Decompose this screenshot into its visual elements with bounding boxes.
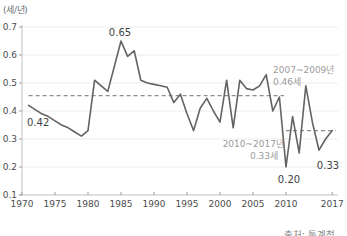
x-axis-tick-label: 1990: [143, 199, 166, 209]
x-axis-tick-label: 2000: [209, 199, 232, 209]
annotation-2010-value: 0.20: [278, 174, 300, 185]
annotation-1971-value: 0.42: [27, 117, 49, 128]
y-axis-tick-label: 0.3: [3, 134, 17, 144]
y-axis-tick-label: 0.5: [3, 78, 17, 88]
x-axis-tick-label: 2005: [242, 199, 265, 209]
y-axis-unit-label: (세/년): [3, 3, 28, 16]
y-axis-tick-label: 0.6: [3, 50, 18, 60]
annotation-2017-value: 0.33: [317, 160, 339, 171]
x-axis-tick-label: 1985: [110, 199, 133, 209]
source-label: 출처: 통계청: [284, 227, 335, 236]
line-chart: 0.70.60.50.40.30.20.11970197519801985199…: [0, 0, 347, 236]
y-axis-tick-label: 0.4: [3, 106, 18, 116]
x-axis-tick-label: 1980: [77, 199, 100, 209]
x-axis-tick-label: 1970: [11, 199, 34, 209]
x-axis-tick-label: 2017: [321, 199, 344, 209]
trend-line: [29, 41, 333, 167]
y-axis-tick-label: 0.7: [3, 22, 17, 32]
avg-2007-2009-period-label: 2007~2009년: [273, 65, 334, 75]
annotation-1985-value: 0.65: [109, 27, 131, 38]
x-axis-tick-label: 2010: [275, 199, 298, 209]
avg-2007-2009-value-label: 0.46세: [273, 77, 301, 87]
chart-container: (세/년) 0.70.60.50.40.30.20.11970197519801…: [0, 0, 347, 236]
x-axis-tick-label: 1995: [176, 199, 199, 209]
avg-2010-2017-period-label: 2010~2017년: [223, 139, 284, 149]
avg-2010-2017-value-label: 0.33세: [250, 151, 278, 161]
x-axis-tick-label: 1975: [44, 199, 67, 209]
y-axis-tick-label: 0.2: [3, 162, 17, 172]
